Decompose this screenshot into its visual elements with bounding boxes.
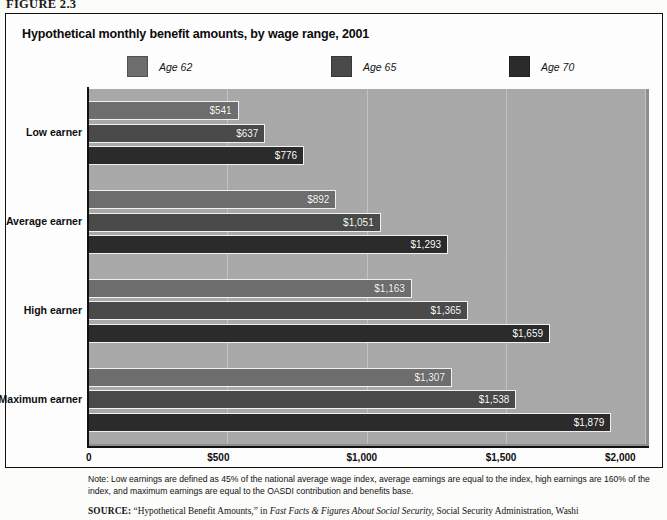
x-tick-label: $2,000 xyxy=(605,452,636,463)
x-tick-label: $1,000 xyxy=(347,452,378,463)
bar: $1,307 xyxy=(88,368,452,387)
legend-label-age-65: Age 65 xyxy=(363,61,396,73)
x-axis-line xyxy=(87,446,649,448)
bar: $1,293 xyxy=(88,235,448,254)
y-axis-line xyxy=(87,87,89,446)
bar: $1,879 xyxy=(88,413,611,432)
bar-value-label: $892 xyxy=(307,194,335,205)
legend-item-age-62: Age 62 xyxy=(127,56,192,77)
category-label-low-earner: Low earner xyxy=(0,126,82,138)
bar-value-label: $1,659 xyxy=(512,328,549,339)
bar: $541 xyxy=(88,101,239,120)
chart-legend: Age 62 Age 65 Age 70 xyxy=(0,55,667,83)
legend-swatch-age-70 xyxy=(509,56,530,77)
bar-value-label: $541 xyxy=(209,105,237,116)
x-tick-label: $1,500 xyxy=(486,452,517,463)
x-tick-label: $500 xyxy=(207,452,229,463)
bar-value-label: $1,538 xyxy=(479,394,516,405)
bar: $776 xyxy=(88,146,304,165)
bar-value-label: $1,879 xyxy=(574,417,611,428)
bar: $892 xyxy=(88,190,336,209)
bar: $1,659 xyxy=(88,324,550,343)
legend-label-age-62: Age 62 xyxy=(159,61,192,73)
chart-note: Note: Low earnings are defined as 45% of… xyxy=(88,474,660,498)
bar: $1,163 xyxy=(88,279,412,298)
source-in-word: in xyxy=(260,506,267,516)
bar-value-label: $1,307 xyxy=(414,372,451,383)
category-label-high-earner: High earner xyxy=(0,304,82,316)
legend-swatch-age-65 xyxy=(331,56,352,77)
bar: $1,051 xyxy=(88,213,381,232)
category-label-average-earner: Average earner xyxy=(0,215,82,227)
figure-page: FIGURE 2.3 Hypothetical monthly benefit … xyxy=(0,0,667,520)
chart-title: Hypothetical monthly benefit amounts, by… xyxy=(22,27,369,41)
x-tick-label: 0 xyxy=(86,452,92,463)
source-publisher: Social Security Administration, Washi xyxy=(436,506,578,516)
chart-source: SOURCE: “Hypothetical Benefit Amounts,” … xyxy=(88,505,660,517)
figure-number-label: FIGURE 2.3 xyxy=(6,0,76,12)
bar: $637 xyxy=(88,124,265,143)
source-publication: Fast Facts & Figures About Social Securi… xyxy=(270,506,434,516)
category-axis-labels: Low earnerAverage earnerHigh earnerMaxim… xyxy=(0,89,82,444)
legend-swatch-age-62 xyxy=(127,56,148,77)
bar-value-label: $1,293 xyxy=(411,239,448,250)
bar: $1,365 xyxy=(88,301,468,320)
bar-value-label: $1,365 xyxy=(431,305,468,316)
x-axis-tick-labels: 0$500$1,000$1,500$2,000 xyxy=(0,452,667,468)
bar: $1,538 xyxy=(88,390,516,409)
source-prefix: SOURCE: xyxy=(88,506,131,516)
bar-value-label: $637 xyxy=(236,128,264,139)
bar-value-label: $776 xyxy=(275,150,303,161)
source-quoted-title: “Hypothetical Benefit Amounts,” xyxy=(134,506,258,516)
category-label-maximum-earner: Maximum earner xyxy=(0,393,82,405)
gridline xyxy=(645,89,646,444)
legend-label-age-70: Age 70 xyxy=(541,61,574,73)
legend-item-age-70: Age 70 xyxy=(509,56,574,77)
bar-value-label: $1,051 xyxy=(343,217,380,228)
bar-value-label: $1,163 xyxy=(374,283,411,294)
plot-area: $541$637$776$892$1,051$1,293$1,163$1,365… xyxy=(88,89,645,444)
legend-item-age-65: Age 65 xyxy=(331,56,396,77)
